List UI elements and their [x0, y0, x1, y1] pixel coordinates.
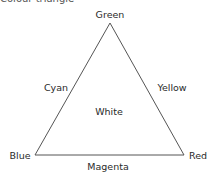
center-label-white: White	[95, 106, 123, 117]
edge-label-yellow: Yellow	[157, 82, 186, 93]
edge-label-magenta: Magenta	[87, 161, 128, 172]
vertex-label-blue: Blue	[9, 150, 30, 161]
vertex-label-red: Red	[189, 150, 207, 161]
edge-label-cyan: Cyan	[44, 82, 68, 93]
vertex-label-green: Green	[96, 9, 125, 20]
